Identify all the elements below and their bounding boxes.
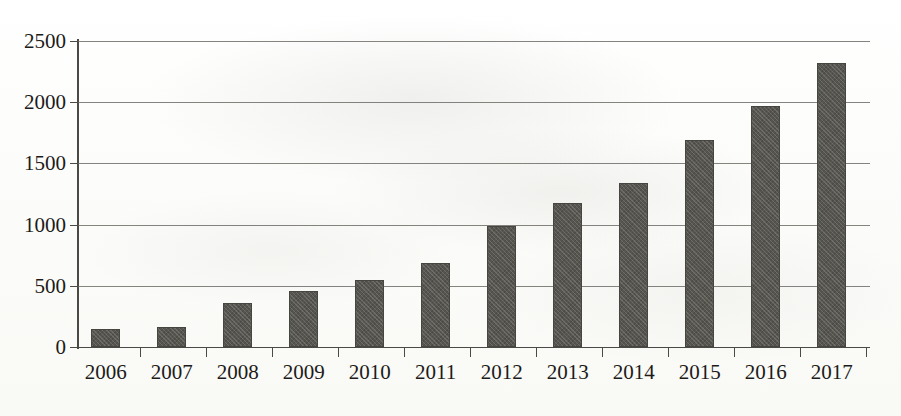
x-tick-label-2014: 2014 <box>613 362 655 383</box>
x-tick-label-2016: 2016 <box>745 362 787 383</box>
x-tick-label-2009: 2009 <box>283 362 325 383</box>
x-tick-label-2011: 2011 <box>415 362 456 383</box>
bar-2015[interactable] <box>685 140 714 347</box>
x-tick-2007 <box>206 348 207 357</box>
gridline-0 <box>78 347 870 348</box>
y-tick-label-1000: 1000 <box>0 215 66 236</box>
x-tick-label-2015: 2015 <box>679 362 721 383</box>
bar-2011[interactable] <box>421 263 450 347</box>
y-tick-1000 <box>70 225 77 226</box>
x-tick-2009 <box>338 348 339 357</box>
x-tick-label-2008: 2008 <box>217 362 259 383</box>
x-tick-2015 <box>734 348 735 357</box>
plot-area <box>78 41 870 347</box>
y-tick-label-2500: 2500 <box>0 31 66 52</box>
y-tick-label-2000: 2000 <box>0 92 66 113</box>
y-tick-1500 <box>70 163 77 164</box>
gridline-2500 <box>78 41 870 42</box>
y-tick-0 <box>70 347 77 348</box>
bar-2009[interactable] <box>289 291 318 347</box>
x-tick-2012 <box>536 348 537 357</box>
bar-2012[interactable] <box>487 226 516 347</box>
x-tick-2006 <box>140 348 141 357</box>
x-tick-2011 <box>470 348 471 357</box>
x-tick-2013 <box>602 348 603 357</box>
y-tick-2500 <box>70 41 77 42</box>
x-tick-label-2013: 2013 <box>547 362 589 383</box>
bar-chart: 05001000150020002500 2006200720082009201… <box>0 0 901 416</box>
x-tick-label-2007: 2007 <box>151 362 193 383</box>
x-tick-label-2017: 2017 <box>811 362 853 383</box>
y-tick-label-0: 0 <box>0 337 66 358</box>
x-tick-2014 <box>668 348 669 357</box>
x-tick-label-2006: 2006 <box>85 362 127 383</box>
bar-2013[interactable] <box>553 203 582 347</box>
x-tick-2016 <box>800 348 801 357</box>
bar-2007[interactable] <box>157 327 186 347</box>
x-tick-2008 <box>272 348 273 357</box>
x-tick-label-2010: 2010 <box>349 362 391 383</box>
gridline-2000 <box>78 102 870 103</box>
x-tick-label-2012: 2012 <box>481 362 523 383</box>
bar-2008[interactable] <box>223 303 252 347</box>
x-tick-2010 <box>404 348 405 357</box>
bar-2017[interactable] <box>817 63 846 347</box>
x-tick-2017 <box>866 348 867 357</box>
y-tick-label-500: 500 <box>0 276 66 297</box>
bar-2010[interactable] <box>355 280 384 347</box>
bar-2006[interactable] <box>91 329 120 347</box>
bar-2016[interactable] <box>751 106 780 347</box>
y-tick-label-1500: 1500 <box>0 153 66 174</box>
y-tick-2000 <box>70 102 77 103</box>
y-tick-500 <box>70 286 77 287</box>
bar-2014[interactable] <box>619 183 648 347</box>
